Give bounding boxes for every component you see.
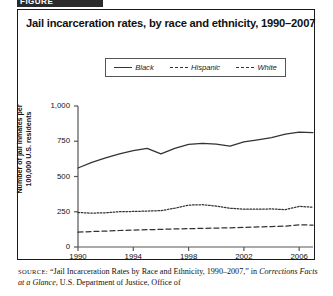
x-tick-label: 2002 xyxy=(227,252,261,261)
x-tick-label: 2006 xyxy=(282,252,316,261)
series-group xyxy=(78,132,313,232)
source-line2: , U.S. Department of Justice, Office of xyxy=(56,278,181,287)
x-tick-label: 1998 xyxy=(172,252,206,261)
y-tick-label: 0 xyxy=(36,242,70,251)
series-line-black xyxy=(78,132,313,168)
x-tick-label: 1994 xyxy=(116,252,150,261)
x-tick-label: 1990 xyxy=(61,252,95,261)
y-tick-label: 500 xyxy=(36,172,70,181)
source-prefix: SOURCE: xyxy=(18,268,48,275)
y-tick-label: 250 xyxy=(36,207,70,216)
y-tick-label: 750 xyxy=(36,136,70,145)
chart-plot-area: 02505007501,000 19901994199820022006 xyxy=(0,0,333,296)
series-line-hispanic xyxy=(78,205,313,213)
y-tick-label: 1,000 xyxy=(36,101,70,110)
axes-group xyxy=(74,106,313,251)
figure-root: FIGURE Jail incarceration rates, by race… xyxy=(0,0,333,296)
source-line1: “Jail Incarceration Rates by Race and Et… xyxy=(48,267,257,276)
source-note: SOURCE: “Jail Incarceration Rates by Rac… xyxy=(18,267,318,288)
series-line-white xyxy=(78,225,313,232)
